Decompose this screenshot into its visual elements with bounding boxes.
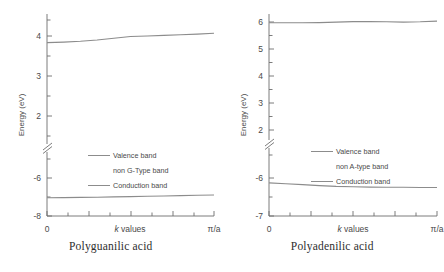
x-axis-title: k values xyxy=(114,224,145,234)
y-tick-label-minus6: -6 xyxy=(33,173,41,183)
chart-panel-polyadenilic: Energy (eV) 6 xyxy=(222,0,444,272)
x-ticks xyxy=(269,211,437,216)
valence-band-curve xyxy=(47,33,214,42)
y-ticks-upper xyxy=(47,20,52,136)
y-tick-label-4: 4 xyxy=(36,31,41,41)
y-axis-title: Energy (eV) xyxy=(239,93,248,136)
y-tick-label-3: 3 xyxy=(258,98,263,108)
x-tick-label-left: 0 xyxy=(266,224,271,234)
y-tick-label-4: 4 xyxy=(258,71,263,81)
y-tick-label-minus7: -7 xyxy=(255,211,263,221)
y-axis-title: Energy (eV) xyxy=(17,93,26,136)
x-tick-label-right: π/a xyxy=(208,224,221,234)
legend-label-non-a-type: non A-type band xyxy=(336,162,388,171)
axis-break-icon xyxy=(43,143,52,154)
y-ticks-lower xyxy=(269,155,274,216)
y-ticks-upper xyxy=(269,22,274,130)
y-tick-label-5: 5 xyxy=(258,44,263,54)
legend-label-non-g-type: non G-Type band xyxy=(113,166,169,175)
panel-caption-polyguanilic: Polyguanilic acid xyxy=(0,240,222,252)
axis-break-icon xyxy=(265,139,274,150)
x-tick-label-left: 0 xyxy=(45,224,50,234)
conduction-band-curve xyxy=(47,195,214,198)
x-axis-title: k values xyxy=(337,224,368,234)
x-axis-title-rest: values xyxy=(341,224,368,234)
legend-label-conduction: Conduction band xyxy=(336,177,390,186)
y-tick-label-minus6: -6 xyxy=(255,173,263,183)
y-tick-label-minus8: -8 xyxy=(33,211,41,221)
chart-legend: Valence band non A-type band Conduction … xyxy=(311,147,390,186)
chart-panel-polyguanilic: Energy (eV) 4 xyxy=(0,0,222,272)
legend-label-conduction: Conduction band xyxy=(113,181,167,190)
y-tick-label-3: 3 xyxy=(36,71,41,81)
y-tick-label-6: 6 xyxy=(258,17,263,27)
y-tick-label-2: 2 xyxy=(258,125,263,135)
x-tick-label-right: π/a xyxy=(430,224,443,234)
x-axis-title-rest: values xyxy=(119,224,146,234)
chart-svg-polyguanilic: Energy (eV) 4 xyxy=(0,0,221,240)
x-ticks xyxy=(47,211,214,216)
chart-legend: Valence band non G-Type band Conduction … xyxy=(88,151,169,190)
panel-caption-polyadenilic: Polyadenilic acid xyxy=(222,240,444,252)
y-tick-label-2: 2 xyxy=(36,111,41,121)
legend-label-valence: Valence band xyxy=(113,151,156,160)
y-ticks-lower xyxy=(47,159,52,216)
chart-svg-polyadenilic: Energy (eV) 6 xyxy=(222,0,444,240)
legend-label-valence: Valence band xyxy=(336,147,379,156)
valence-band-curve xyxy=(269,21,437,23)
